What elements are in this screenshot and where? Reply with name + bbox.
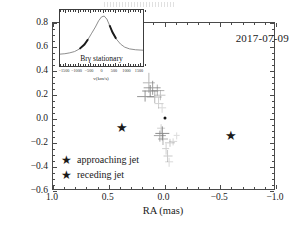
x-tick-major (165, 185, 166, 189)
y-tick-minor (272, 155, 274, 156)
y-tick-minor (53, 77, 55, 78)
x-tick-major (165, 23, 166, 27)
inset-x-tick-label: 1500 (135, 68, 143, 73)
inset-tick (90, 10, 91, 13)
x-tick-minor (276, 187, 277, 189)
y-tick-major (270, 23, 274, 24)
inset-tick (123, 10, 124, 12)
astrometry-figure: ★★ 1.00.50.0−0.5−1.0 0.80.60.40.20.0−0.2… (0, 0, 303, 225)
y-tick-minor (272, 173, 274, 174)
photocentre-errorbar-point (173, 132, 180, 139)
x-tick-minor (187, 187, 188, 189)
y-tick-minor (272, 131, 274, 132)
inset-tick (80, 64, 81, 66)
blue-wing-segment (80, 39, 89, 49)
y-tick-minor (53, 35, 55, 36)
inset-tick (108, 10, 109, 12)
y-tick-minor (272, 113, 274, 114)
legend-label: receding jet (77, 169, 124, 180)
inset-x-axis-title: v(km/s) (93, 76, 109, 81)
inset-tick (65, 10, 66, 13)
inset-tick (125, 10, 126, 12)
x-tick-minor (86, 187, 87, 189)
inset-tick (75, 10, 76, 12)
inset-tick (135, 10, 136, 12)
y-tick-major (270, 143, 274, 144)
inset-tick (75, 64, 76, 66)
legend: ★ approaching jet ★ receding jet (58, 152, 139, 182)
x-tick-minor (220, 23, 221, 25)
legend-label: approaching jet (77, 154, 139, 165)
inset-x-tick-label: 1000 (122, 68, 130, 73)
inset-tick (105, 10, 106, 12)
approaching-jet-star-marker: ★ (116, 121, 128, 134)
photocentre-errorbar-point (165, 158, 173, 166)
inset-tick (83, 10, 84, 12)
inset-tick (78, 10, 79, 13)
inset-tick (88, 10, 89, 12)
inset-tick (128, 63, 129, 66)
inset-tick (118, 10, 119, 12)
inset-tick (130, 64, 131, 66)
inset-tick (93, 10, 94, 12)
inset-spectrum-panel: Brγ stationary (59, 9, 144, 67)
y-tick-major (270, 47, 274, 48)
y-tick-minor (272, 137, 274, 138)
x-tick-minor (254, 187, 255, 189)
inset-tick (145, 10, 146, 12)
y-tick-label: 0.2 (48, 89, 60, 99)
inset-tick (115, 63, 116, 66)
x-axis-title: RA (mas) (143, 205, 184, 216)
inset-tick (60, 64, 61, 66)
x-tick-label: −0.5 (211, 192, 228, 202)
inset-tick (68, 64, 69, 66)
inset-tick (83, 64, 84, 66)
inset-tick (80, 10, 81, 12)
inset-x-tick-label: 500 (111, 68, 117, 73)
x-tick-minor (231, 187, 232, 189)
inset-tick (123, 64, 124, 66)
y-tick-minor (53, 83, 55, 84)
inset-tick (68, 10, 69, 12)
inset-tick (103, 10, 104, 13)
inset-tick (105, 64, 106, 66)
x-tick-minor (243, 187, 244, 189)
y-tick-major (270, 119, 274, 120)
inset-tick (98, 10, 99, 12)
red-wing-segment (110, 25, 117, 39)
inset-tick (70, 10, 71, 12)
continuum-centroid-dot (163, 116, 166, 119)
x-tick-label: −1.0 (266, 192, 283, 202)
inset-tick (70, 64, 71, 66)
y-tick-minor (272, 29, 274, 30)
y-tick-minor (53, 131, 55, 132)
x-tick-minor (131, 187, 132, 189)
x-tick-minor (75, 187, 76, 189)
inset-line-label: Brγ stationary (80, 54, 122, 63)
inset-tick (73, 10, 74, 12)
inset-x-tick-label: −500 (85, 68, 94, 73)
y-tick-minor (53, 155, 55, 156)
inset-tick (138, 10, 139, 12)
x-tick-minor (209, 187, 210, 189)
x-tick-minor (153, 187, 154, 189)
inset-tick (135, 64, 136, 66)
inset-tick (138, 64, 139, 66)
inset-tick (108, 64, 109, 66)
x-tick-major (109, 185, 110, 189)
inset-tick (85, 64, 86, 66)
y-tick-minor (272, 65, 274, 66)
inset-tick (120, 10, 121, 12)
y-tick-minor (53, 149, 55, 150)
y-tick-minor (53, 125, 55, 126)
inset-tick (115, 10, 116, 13)
y-tick-minor (272, 125, 274, 126)
y-tick-minor (272, 179, 274, 180)
inset-tick (143, 10, 144, 12)
inset-tick (140, 63, 141, 66)
y-tick-minor (272, 53, 274, 54)
inset-tick (60, 10, 61, 12)
truncated-title-artifact (104, 2, 174, 7)
legend-item-receding-jet: ★ receding jet (58, 167, 139, 182)
y-tick-minor (272, 89, 274, 90)
